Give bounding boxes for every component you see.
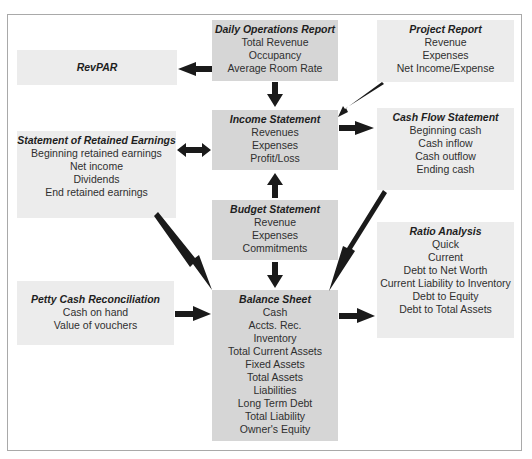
arrow-left-icon: [178, 62, 212, 76]
arrow-right-icon: [175, 306, 211, 321]
arrow-right-icon: [339, 308, 375, 323]
arrow-diagonal-icon: [329, 190, 387, 291]
arrow-up-icon: [267, 173, 283, 198]
arrow-right-icon: [339, 121, 374, 135]
arrow-down-icon: [267, 82, 283, 107]
arrow-double-icon: [177, 143, 211, 157]
arrow-down-icon: [267, 262, 283, 288]
arrows-layer: [0, 0, 532, 459]
arrow-diagonal-icon: [154, 212, 212, 290]
arrow-diagonal-icon: [338, 82, 384, 117]
